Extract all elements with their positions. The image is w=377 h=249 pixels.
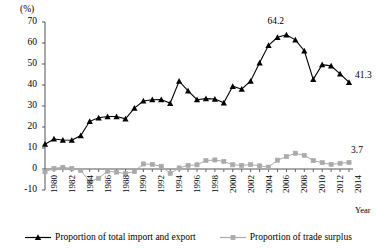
data-point-marker xyxy=(70,166,74,170)
data-point-marker xyxy=(230,83,236,89)
x-axis-tick-label: 1984 xyxy=(85,175,95,193)
data-label: 64.2 xyxy=(267,16,284,26)
data-point-marker xyxy=(61,165,65,169)
y-axis-tick-label: 40 xyxy=(13,79,37,89)
data-point-marker xyxy=(284,155,288,159)
data-point-marker xyxy=(248,78,254,84)
data-point-marker xyxy=(186,163,190,167)
data-point-marker xyxy=(256,60,262,66)
x-axis-tick-label: 2002 xyxy=(246,175,256,193)
data-point-marker xyxy=(79,168,83,172)
y-axis-tick-label: 70 xyxy=(13,16,37,26)
data-point-marker xyxy=(204,159,208,163)
data-point-marker xyxy=(195,163,199,167)
data-point-marker xyxy=(320,161,324,165)
chart-plot-area xyxy=(0,0,377,249)
data-point-marker xyxy=(221,100,227,106)
data-point-marker xyxy=(168,171,172,175)
y-axis-tick-label: 60 xyxy=(13,37,37,47)
x-axis-tick-label: 1992 xyxy=(156,175,166,193)
data-label: 3.7 xyxy=(351,145,363,155)
data-label: 41.3 xyxy=(355,70,372,80)
data-point-marker xyxy=(302,153,306,157)
data-point-marker xyxy=(240,163,244,167)
x-axis-tick-label: 1996 xyxy=(192,175,202,193)
data-point-marker xyxy=(177,166,181,170)
data-point-marker xyxy=(292,37,298,43)
data-point-marker xyxy=(311,159,315,163)
data-point-marker xyxy=(293,151,297,155)
data-point-marker xyxy=(43,170,47,174)
data-point-marker xyxy=(141,162,145,166)
data-point-marker xyxy=(283,32,289,38)
x-axis-tick-label: 2014 xyxy=(353,175,363,193)
data-point-marker xyxy=(87,118,93,124)
data-point-marker xyxy=(42,141,48,147)
data-point-marker xyxy=(347,160,351,164)
y-axis-tick-label: 10 xyxy=(13,142,37,152)
y-axis-tick-label: 0 xyxy=(13,163,37,173)
data-point-marker xyxy=(222,159,226,163)
legend-label: Proportion of total import and export xyxy=(55,232,196,242)
x-axis-tick-label: 2000 xyxy=(228,175,238,193)
x-axis-tick-label: 1986 xyxy=(103,175,113,193)
legend-item-2[interactable]: Proportion of trade surplus xyxy=(220,232,352,243)
data-point-marker xyxy=(150,162,154,166)
data-point-marker xyxy=(249,162,253,166)
x-axis-title: Year xyxy=(355,205,371,215)
x-axis-tick-label: 1980 xyxy=(49,175,59,193)
data-point-marker xyxy=(105,169,109,173)
series-1 xyxy=(42,32,352,147)
legend-item-1[interactable]: Proportion of total import and export xyxy=(25,232,196,243)
data-point-marker xyxy=(231,163,235,167)
y-axis-tick-label: 50 xyxy=(13,58,37,68)
data-point-marker xyxy=(266,165,270,169)
y-axis-tick-label: -10 xyxy=(13,184,37,194)
data-point-marker xyxy=(338,161,342,165)
data-point-marker xyxy=(97,176,101,180)
data-point-marker xyxy=(167,100,173,106)
x-axis-tick-label: 2004 xyxy=(264,175,274,193)
data-point-marker xyxy=(132,169,136,173)
x-axis-tick-label: 1988 xyxy=(121,175,131,193)
x-axis-tick-label: 2006 xyxy=(281,175,291,193)
x-axis-tick-label: 1994 xyxy=(174,175,184,193)
data-point-marker xyxy=(329,162,333,166)
x-axis-tick-label: 1982 xyxy=(67,175,77,193)
data-point-marker xyxy=(114,170,118,174)
x-axis-tick-label: 2008 xyxy=(299,175,309,193)
chart-container: (%) 706050403020100-10 19801982198419861… xyxy=(0,0,377,249)
x-axis-tick-label: 1998 xyxy=(210,175,220,193)
chart-legend: Proportion of total import and exportPro… xyxy=(0,229,377,245)
x-axis-tick-label: 2010 xyxy=(317,175,327,193)
data-point-marker xyxy=(310,76,316,82)
data-point-marker xyxy=(275,158,279,162)
data-point-marker xyxy=(159,164,163,168)
x-axis-tick-label: 1990 xyxy=(138,175,148,193)
data-point-marker xyxy=(52,166,56,170)
data-point-marker xyxy=(257,164,261,168)
data-point-marker xyxy=(176,78,182,84)
data-point-marker xyxy=(78,133,84,139)
square-marker-icon xyxy=(220,232,246,243)
data-point-marker xyxy=(213,158,217,162)
y-axis-tick-label: 20 xyxy=(13,121,37,131)
y-axis-tick-label: 30 xyxy=(13,100,37,110)
x-axis-tick-label: 2012 xyxy=(335,175,345,193)
triangle-marker-icon xyxy=(25,232,51,243)
legend-label: Proportion of trade surplus xyxy=(250,232,352,242)
